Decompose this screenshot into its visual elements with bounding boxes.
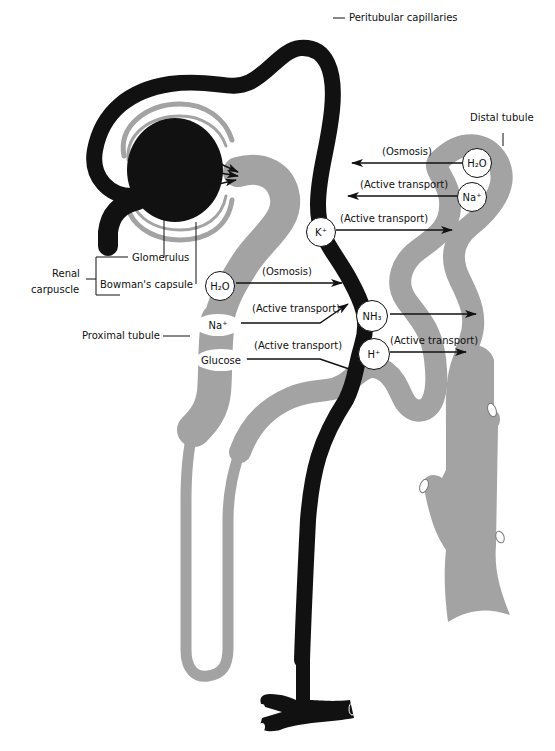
ion-circle-nh3: NH₃ xyxy=(356,300,388,332)
ion-oval-na-proximal: Na⁺ xyxy=(195,314,241,336)
ion-circle-k: K⁺ xyxy=(306,217,336,247)
process-label: (Osmosis) xyxy=(262,266,312,278)
process-label: (Active transport) xyxy=(340,213,428,225)
label-peritubular-capillaries: Peritubular capillaries xyxy=(349,12,458,24)
process-label: (Osmosis) xyxy=(382,146,432,158)
label-distal-tubule: Distal tubule xyxy=(470,112,534,124)
process-label: (Active transport) xyxy=(252,303,340,315)
vessel-opening-icon xyxy=(259,723,265,731)
label-renal-carpuscle-line2: carpuscle xyxy=(31,284,79,296)
process-label: (Active transport) xyxy=(360,179,448,191)
ion-circle-h2o-distal: H₂O xyxy=(462,148,492,178)
glomerulus-shape xyxy=(127,118,223,222)
ion-circle-h2o-proximal: H₂O xyxy=(205,271,235,301)
label-glomerulus: Glomerulus xyxy=(132,252,189,264)
ion-oval-glucose: Glucose xyxy=(195,349,247,371)
label-renal-carpuscle-line1: Renal xyxy=(52,268,80,280)
vessel-opening-icon xyxy=(259,704,265,712)
ion-circle-na-distal: Na⁺ xyxy=(457,182,487,212)
process-label: (Active transport) xyxy=(254,340,342,352)
process-label: (Active transport) xyxy=(390,335,478,347)
label-proximal-tubule: Proximal tubule xyxy=(82,330,160,342)
label-bowmans-capsule: Bowman's capsule xyxy=(100,279,193,291)
ion-circle-h: H⁺ xyxy=(358,338,390,370)
renal-vein-branch-shape xyxy=(260,655,354,731)
